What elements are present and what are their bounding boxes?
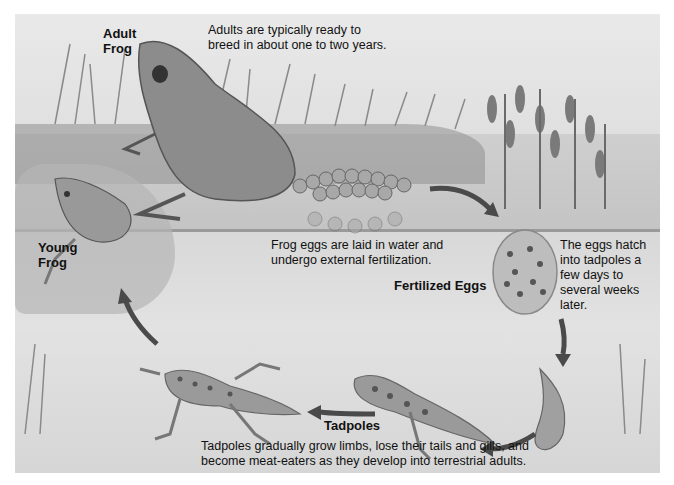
description-line: into tadpoles a	[560, 253, 646, 268]
arrow-to-young-frog-icon	[125, 299, 157, 344]
description-line: Frog eggs are laid in water and	[271, 238, 443, 253]
description-line: undergo external fertilization.	[271, 253, 443, 268]
arrow-to-late-tadpole-icon	[320, 412, 375, 414]
hatch-description: The eggs hatch into tadpoles a few days …	[560, 238, 646, 313]
arrow-hatch-icon	[561, 319, 564, 354]
cycle-arrows	[125, 188, 564, 449]
tadpoles-description: Tadpoles gradually grow limbs, lose thei…	[201, 439, 529, 469]
arrow-eggs-icon	[430, 188, 490, 209]
adult-frog-label: Adult Frog	[103, 26, 136, 56]
description-line: several weeks	[560, 283, 646, 298]
hatchling-icon	[535, 369, 565, 450]
adult-frog-label-line-1: Adult	[103, 26, 136, 41]
description-line: The eggs hatch	[560, 238, 646, 253]
young-frog-label: Young Frog	[38, 240, 77, 270]
fertilized-eggs-label: Fertilized Eggs	[394, 278, 486, 293]
fertilized-egg-closeup-icon	[493, 230, 557, 314]
adult-frog-description: Adults are typically ready to breed in a…	[208, 23, 387, 53]
adult-frog-icon	[125, 41, 295, 219]
description-line: few days to	[560, 268, 646, 283]
tadpoles-label: Tadpoles	[324, 418, 380, 433]
description-line: Adults are typically ready to	[208, 23, 387, 38]
young-frog-label-line-2: Frog	[38, 255, 77, 270]
egg-mass-icon	[293, 169, 411, 233]
description-line: Tadpoles gradually grow limbs, lose thei…	[201, 439, 529, 454]
life-cycle-illustration: Adult Frog Adults are typically ready to…	[15, 14, 660, 473]
description-line: breed in about one to two years.	[208, 38, 387, 53]
description-line: later.	[560, 298, 646, 313]
young-frog-label-line-1: Young	[38, 240, 77, 255]
adult-frog-label-line-2: Frog	[103, 41, 136, 56]
eggs-description: Frog eggs are laid in water and undergo …	[271, 238, 443, 268]
late-tadpole-icon	[140, 364, 300, 444]
description-line: become meat-eaters as they develop into …	[201, 454, 529, 469]
